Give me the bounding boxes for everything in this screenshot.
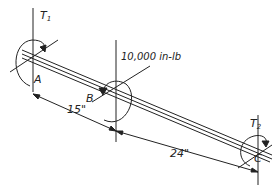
point-a-label: A (34, 74, 42, 85)
applied-torque-label: 10,000 in-lb (121, 52, 181, 62)
shaft-diagram (0, 0, 280, 187)
torque-label-t1: T1 (40, 10, 51, 23)
point-b-label: B (86, 93, 94, 104)
torque-label-t2: T2 (250, 118, 261, 131)
point-c-label: C (254, 153, 262, 164)
dimension-bc-label: 24" (170, 148, 189, 159)
dimension-ab-label: 15" (67, 104, 86, 115)
